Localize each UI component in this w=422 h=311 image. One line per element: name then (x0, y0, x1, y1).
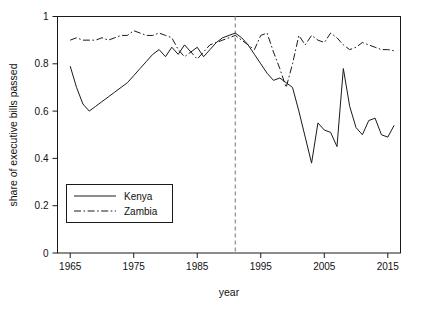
legend-label-kenya: Kenya (124, 191, 153, 202)
x-tick-label: 1995 (250, 261, 273, 272)
y-tick-label: 0.2 (35, 200, 49, 211)
y-tick-label: 0.4 (35, 153, 49, 164)
y-tick-label: 0 (43, 248, 49, 259)
series-layer (70, 31, 394, 163)
x-axis-title: year (219, 286, 240, 298)
y-axis-ticks: 00.20.40.60.81 (35, 11, 58, 259)
x-tick-label: 1985 (186, 261, 209, 272)
x-axis-ticks: 196519751985199520052015 (59, 253, 399, 272)
y-tick-label: 0.8 (35, 58, 49, 69)
x-tick-label: 1965 (59, 261, 82, 272)
chart-legend[interactable]: Kenya Zambia (67, 185, 173, 223)
x-tick-label: 2005 (313, 261, 336, 272)
legend-label-zambia: Zambia (124, 206, 158, 217)
y-tick-label: 0.6 (35, 106, 49, 117)
legend-box (67, 185, 173, 223)
x-tick-label: 1975 (123, 261, 146, 272)
line-chart: 196519751985199520052015 00.20.40.60.81 … (0, 0, 422, 311)
chart-container: 196519751985199520052015 00.20.40.60.81 … (0, 0, 422, 311)
x-tick-label: 2015 (377, 261, 400, 272)
y-axis-title: share of executive bills passed (7, 63, 19, 206)
y-tick-label: 1 (43, 11, 49, 22)
series-kenya (70, 33, 394, 163)
